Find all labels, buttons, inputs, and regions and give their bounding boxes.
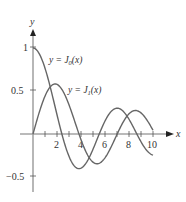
bessel-chart: 1 0.5 −0.5 2 4 6 8 10 x y y = J0(x) y = … [0,0,186,202]
x-tick-8: 8 [126,139,131,150]
x-tick-10: 10 [147,139,157,150]
y-tick-1: 1 [23,42,28,53]
x-tick-2: 2 [54,139,59,150]
x-axis-arrow-icon [166,131,174,137]
x-tick-6: 6 [102,139,107,150]
y-axis-label: y [29,16,35,27]
y-tick-neg0.5: −0.5 [6,171,24,182]
j1-curve [33,84,153,164]
x-axis-label: x [175,128,181,139]
y-tick-0.5: 0.5 [11,85,24,96]
y-axis-arrow-icon [30,29,36,36]
j1-label: y = J1(x) [67,85,101,96]
j0-label: y = J0(x) [48,55,82,66]
j0-curve [33,48,153,169]
